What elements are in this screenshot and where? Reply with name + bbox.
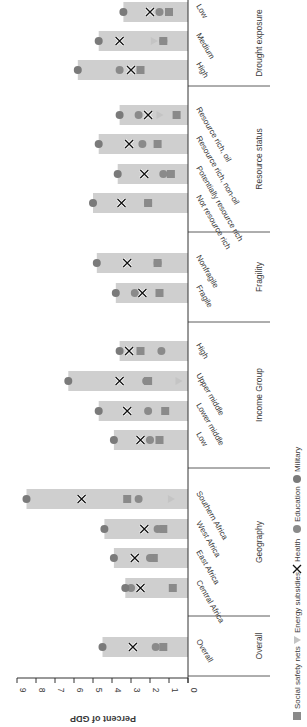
bar-military — [99, 31, 188, 51]
group-label: Geography — [254, 520, 264, 563]
tick-label: 0 — [189, 688, 199, 693]
bar-west-africa — [100, 519, 188, 539]
group-label: Income Group — [254, 368, 264, 422]
category-label: Overall — [194, 638, 215, 665]
category-label: High — [194, 61, 210, 80]
bar-lower-middle — [95, 401, 188, 421]
legend-energy-subsidies-label: Energy subsidies — [293, 572, 302, 633]
military-marker — [121, 584, 129, 592]
social-safety-nets-marker — [169, 584, 177, 592]
military-marker — [23, 495, 31, 503]
bar-east-africa — [110, 548, 188, 568]
education-marker — [142, 377, 150, 385]
bar-nonfragile — [93, 253, 188, 273]
education-marker — [116, 66, 124, 74]
bar-high — [74, 60, 188, 80]
category-label: High — [194, 342, 210, 361]
bar-southern-africa — [23, 489, 189, 509]
legend-military-icon — [293, 475, 301, 483]
group-label: Drought exposure — [254, 9, 264, 77]
tick-label: 7 — [56, 688, 66, 693]
bar-resource-rich-oil — [116, 105, 188, 125]
bar-high — [116, 341, 188, 361]
category-label: Nonfragile — [194, 254, 220, 291]
education-marker — [156, 8, 164, 16]
group-label: Resource status — [254, 128, 264, 189]
category-label: Low — [194, 3, 209, 20]
military-marker — [93, 259, 101, 267]
legend-energy-subsidies-icon — [294, 636, 301, 644]
legend-social-safety-nets: Social safety nets — [293, 646, 302, 720]
military-marker — [116, 347, 124, 355]
military-marker — [114, 170, 122, 178]
category-labels: OverallCentral AfricaEast AfricaWest Afr… — [194, 3, 244, 665]
legend-education: Education — [293, 486, 302, 533]
legend-social-safety-nets-label: Social safety nets — [293, 646, 302, 709]
axis-title: Percent of GDP — [70, 714, 136, 724]
legend-health-icon — [293, 565, 301, 573]
education-marker — [159, 37, 167, 45]
military-marker — [95, 407, 103, 415]
bar-resource-rich-non-oil — [95, 134, 188, 154]
education-marker — [157, 347, 165, 355]
bar-military — [97, 253, 188, 273]
legend: Social safety netsEnergy subsidiesHealth… — [293, 447, 302, 720]
bar-medium — [95, 31, 188, 51]
bar-military — [93, 193, 188, 213]
education-marker — [138, 140, 146, 148]
tick-label: 4 — [113, 688, 123, 693]
group-labels: OverallGeographyIncome GroupFragilityRes… — [254, 9, 264, 660]
education-marker — [159, 170, 167, 178]
military-marker — [100, 525, 108, 533]
category-label: Central Africa — [194, 579, 226, 626]
military-marker — [99, 643, 107, 651]
legend-health: Health — [293, 539, 302, 573]
military-marker — [95, 140, 103, 148]
military-marker — [112, 289, 120, 297]
bar-military — [116, 283, 188, 303]
bar-military — [27, 489, 189, 509]
education-marker — [154, 259, 162, 267]
education-marker — [146, 554, 154, 562]
tick-label: 2 — [151, 688, 161, 693]
category-label: Low — [194, 431, 209, 448]
social-safety-nets-marker — [156, 436, 164, 444]
social-safety-nets-marker — [123, 495, 131, 503]
category-label: Medium — [194, 32, 216, 61]
tick-label: 1 — [170, 688, 180, 693]
bar-potentially-resource-rich — [114, 164, 188, 184]
bar-not-resource-rich — [89, 193, 188, 213]
education-marker — [144, 199, 152, 207]
education-marker — [135, 495, 143, 503]
bar-low — [110, 430, 188, 450]
group-label: Fragility — [254, 261, 264, 292]
group-label: Overall — [254, 632, 264, 659]
tick-label: 5 — [94, 688, 104, 693]
social-safety-nets-marker — [137, 66, 145, 74]
bar-upper-middle — [64, 371, 188, 391]
bar-military — [118, 164, 188, 184]
social-safety-nets-marker — [156, 289, 164, 297]
legend-education-label: Education — [293, 486, 302, 522]
military-marker — [89, 199, 97, 207]
military-marker — [95, 37, 103, 45]
legend-health-label: Health — [293, 539, 302, 562]
social-safety-nets-marker — [159, 643, 167, 651]
social-safety-nets-marker — [167, 170, 175, 178]
tick-label: 8 — [37, 688, 47, 693]
legend-military-label: Military — [293, 447, 302, 472]
legend-education-icon — [293, 525, 301, 533]
bar-low — [119, 2, 188, 22]
x-stroke — [293, 565, 301, 573]
legend-social-safety-nets-icon — [293, 712, 301, 720]
bar-overall — [99, 637, 189, 657]
education-marker — [146, 436, 154, 444]
military-marker — [119, 8, 127, 16]
legend-military: Military — [293, 447, 302, 483]
education-marker — [154, 525, 162, 533]
bar-military — [103, 637, 189, 657]
bar-fragile — [112, 283, 188, 303]
social-safety-nets-marker — [161, 407, 169, 415]
tick-label: 9 — [18, 688, 28, 693]
social-safety-nets-marker — [137, 347, 145, 355]
